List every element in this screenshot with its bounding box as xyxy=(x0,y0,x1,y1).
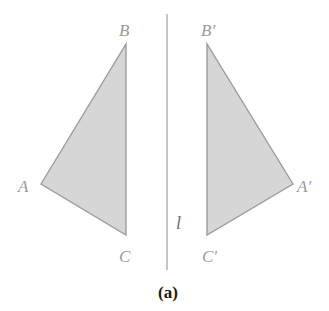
figure-caption: (a) xyxy=(158,283,178,302)
triangle-abc xyxy=(41,44,126,235)
label-a-prime: A′ xyxy=(296,177,311,196)
label-b: B xyxy=(119,21,130,40)
triangle-a-prime-b-prime-c-prime xyxy=(207,44,293,235)
reflection-diagram: B A C B′ A′ C′ l (a) xyxy=(0,0,329,311)
label-c: C xyxy=(119,247,131,266)
label-c-prime: C′ xyxy=(202,247,217,266)
label-l: l xyxy=(176,213,181,233)
label-a: A xyxy=(17,177,29,196)
label-b-prime: B′ xyxy=(201,21,215,40)
